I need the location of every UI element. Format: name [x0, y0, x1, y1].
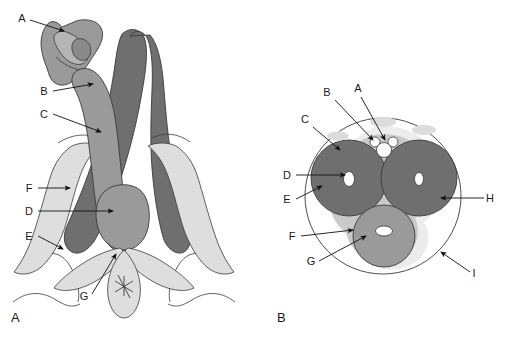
label-a: A [18, 12, 26, 24]
deep-artery-right [415, 173, 424, 186]
panel-a-coronal-view: A B C F D E G [0, 0, 253, 338]
label-e: E [25, 230, 32, 242]
perineum-outline-bottom-left [13, 294, 80, 307]
label-f: F [26, 182, 33, 194]
bulb-of-penis [96, 185, 149, 250]
panel-a-caption: A [11, 310, 20, 325]
label-d: D [25, 205, 33, 217]
label-c: C [40, 108, 48, 120]
panel-b-caption: B [277, 310, 286, 325]
panel-b-cross-section: A B C D E F G H I [253, 0, 506, 338]
label-e: E [283, 193, 290, 205]
label-c: C [301, 113, 309, 125]
label-b: B [323, 86, 330, 98]
label-f: F [289, 230, 296, 242]
label-h: H [486, 192, 494, 204]
panel-a-drawing: A B C F D E G [0, 0, 253, 338]
superficial-vein-blob-right [412, 125, 436, 135]
label-d: D [283, 169, 291, 181]
deep-dorsal-vein [377, 143, 392, 158]
urethra-lumen [376, 226, 393, 236]
label-a: A [354, 82, 362, 94]
superficial-vein-blob-left [327, 132, 349, 141]
leader-i [441, 252, 470, 272]
label-g: G [307, 255, 316, 267]
perineum-outline-bottom-right [168, 294, 235, 307]
anatomy-figure: A B C F D E G [0, 0, 506, 338]
label-g: G [80, 290, 89, 302]
label-b: B [40, 85, 47, 97]
deep-artery-left [344, 172, 355, 187]
label-i: I [472, 267, 475, 279]
superficial-vein-blob-center [370, 117, 396, 127]
panel-b-drawing: A B C D E F G H I [253, 0, 506, 338]
